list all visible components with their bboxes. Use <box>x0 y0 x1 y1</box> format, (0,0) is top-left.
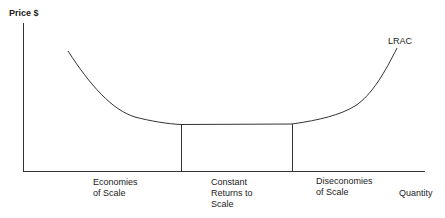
region-constant-line2: Returns to <box>211 188 253 199</box>
x-axis-label: Quantity <box>399 188 433 199</box>
y-axis-label: Price $ <box>9 8 39 19</box>
region-constant-line1: Constant <box>211 177 247 188</box>
lrac-curve <box>68 48 397 125</box>
region-economies-line2: of Scale <box>93 188 126 199</box>
region-diseconomies-line2: of Scale <box>316 187 349 198</box>
region-economies-line1: Economies <box>93 177 138 188</box>
region-constant-line3: Scale <box>211 199 234 210</box>
region-diseconomies-line1: Diseconomies <box>316 176 373 187</box>
curve-label: LRAC <box>388 36 412 47</box>
